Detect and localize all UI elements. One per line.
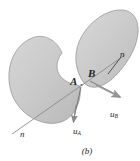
label-velocity-a: uA bbox=[73, 127, 81, 137]
contact-bodies-diagram bbox=[0, 0, 140, 145]
ub-vector-arrow bbox=[96, 85, 120, 97]
body-right-shape bbox=[76, 10, 138, 87]
label-velocity-b-subscript: B bbox=[115, 113, 118, 119]
figure-container: A B n n uA uB (b) bbox=[0, 0, 140, 161]
label-point-b: B bbox=[88, 68, 95, 79]
label-normal-right: n bbox=[120, 50, 125, 59]
label-normal-left: n bbox=[20, 130, 25, 139]
label-velocity-a-subscript: A bbox=[78, 130, 81, 136]
figure-caption: (b) bbox=[0, 146, 140, 156]
label-point-a: A bbox=[70, 76, 77, 87]
contact-point bbox=[80, 84, 82, 86]
figure-caption-text: (b) bbox=[48, 146, 93, 156]
label-velocity-b: uB bbox=[110, 110, 118, 120]
